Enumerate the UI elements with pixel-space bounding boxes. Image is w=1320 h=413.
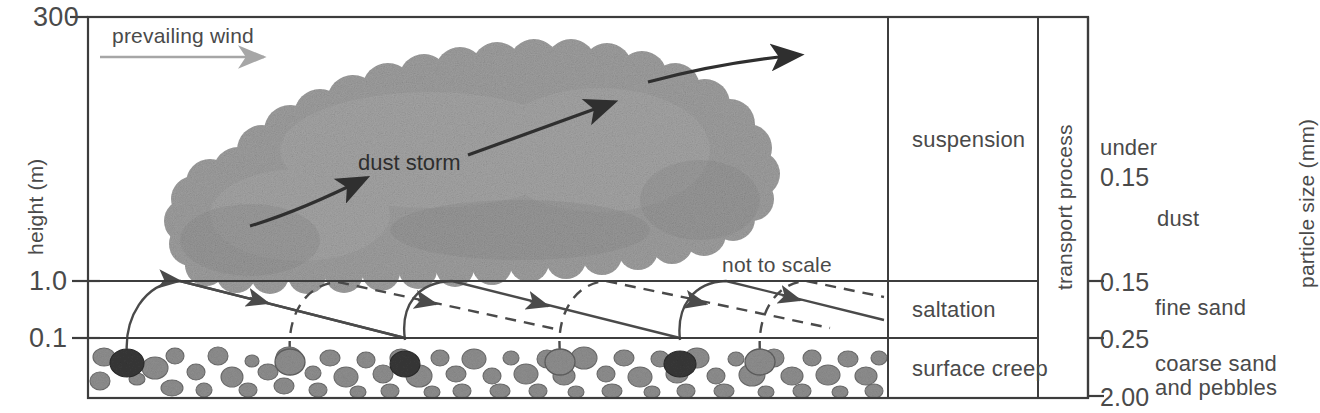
particle-size-axis-title: particle size (mm) <box>1295 119 1319 288</box>
cell-surface-creep: surface creep <box>912 356 1048 382</box>
particle-under-value: 0.15 <box>1100 163 1149 192</box>
y-axis-title: height (m) <box>24 158 48 255</box>
particle-bed <box>90 347 887 398</box>
particle-tick-025: 0.25 <box>1100 325 1149 354</box>
not-to-scale-note: not to scale <box>722 253 832 277</box>
particle-material-dust: dust <box>1157 207 1199 232</box>
prevailing-wind-label: prevailing wind <box>112 24 254 48</box>
dust-storm-label: dust storm <box>358 150 461 176</box>
transport-process-header: transport process <box>1053 124 1077 290</box>
diagram-canvas: 300 1.0 0.1 height (m) prevailing wind d… <box>0 0 1320 413</box>
particle-tick-200: 2.00 <box>1100 383 1149 412</box>
particle-material-fine-sand: fine sand <box>1155 296 1246 321</box>
particle-under-label: under <box>1100 136 1157 161</box>
y-tick-1-0: 1.0 <box>29 266 67 297</box>
dust-storm-cloud <box>164 39 780 294</box>
particle-material-coarse-1: coarse sand <box>1155 352 1277 377</box>
particle-tick-015: 0.15 <box>1100 268 1149 297</box>
y-tick-300: 300 <box>33 2 79 33</box>
y-tick-0-1: 0.1 <box>29 323 67 354</box>
cell-saltation: saltation <box>912 297 996 323</box>
cell-suspension: suspension <box>912 127 1025 153</box>
particle-material-coarse-2: and pebbles <box>1155 376 1277 401</box>
